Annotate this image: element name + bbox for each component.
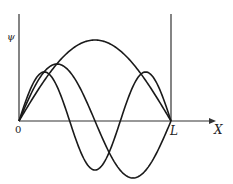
wave-curve-n1 — [19, 40, 171, 121]
y-axis-label: ψ — [7, 32, 15, 42]
wall-label: L — [170, 125, 178, 137]
wave-diagram — [0, 0, 233, 184]
wave-curves — [19, 40, 171, 178]
origin-label: 0 — [15, 125, 21, 135]
x-axis-label: X — [214, 124, 223, 136]
